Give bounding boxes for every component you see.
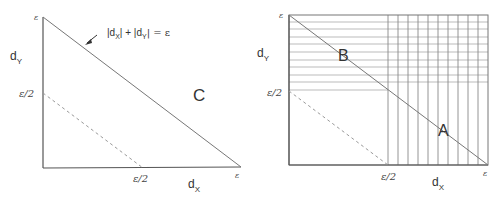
y-axis-label: dY	[10, 49, 23, 66]
x-axis	[43, 167, 241, 168]
equation-annotation: |dX| + |dY| = ε	[107, 27, 170, 40]
tick-x-half: ε/2	[381, 171, 396, 182]
diagram-canvas: ε ε/2 ε/2 ε dY dX C |dX| + |dY| = ε	[0, 0, 498, 203]
tick-x-end: ε	[483, 169, 487, 178]
tick-x-end: ε	[235, 171, 239, 180]
x-axis-label: dX	[188, 177, 201, 194]
tick-y-top: ε	[279, 11, 283, 20]
vertical-hatching	[388, 15, 478, 165]
x-axis-label: dX	[432, 175, 445, 192]
tick-y-half: ε/2	[267, 87, 282, 98]
tick-y-top: ε	[34, 13, 38, 22]
arrow-head-icon	[85, 39, 92, 45]
dashed-half-line	[43, 93, 143, 168]
region-label-a: A	[438, 122, 449, 139]
tick-y-half: ε/2	[19, 88, 34, 99]
region-label-b: B	[338, 47, 349, 64]
dashed-half-line	[289, 91, 388, 165]
right-panel: ε ε/2 ε/2 ε dY dX B A	[257, 11, 488, 192]
y-axis-label: dY	[257, 46, 270, 63]
region-label-c: C	[193, 86, 205, 105]
tick-x-half: ε/2	[133, 173, 148, 184]
left-panel: ε ε/2 ε/2 ε dY dX C |dX| + |dY| = ε	[10, 13, 241, 194]
